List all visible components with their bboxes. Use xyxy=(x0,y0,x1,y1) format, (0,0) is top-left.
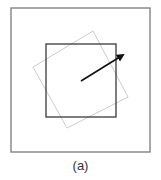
rotated-square xyxy=(33,31,128,128)
outer-square xyxy=(11,8,150,152)
arrow-vector xyxy=(81,55,123,81)
diagram-figure xyxy=(0,0,161,180)
figure-caption: (a) xyxy=(0,158,161,173)
